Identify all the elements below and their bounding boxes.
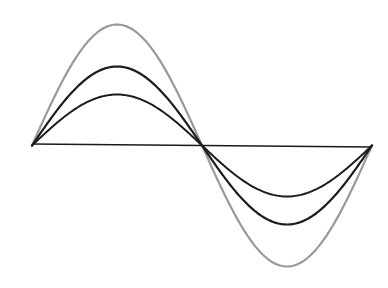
wave-group [32,25,372,267]
sine-wave-diagram [0,0,388,288]
small-amplitude-wave [32,95,372,197]
